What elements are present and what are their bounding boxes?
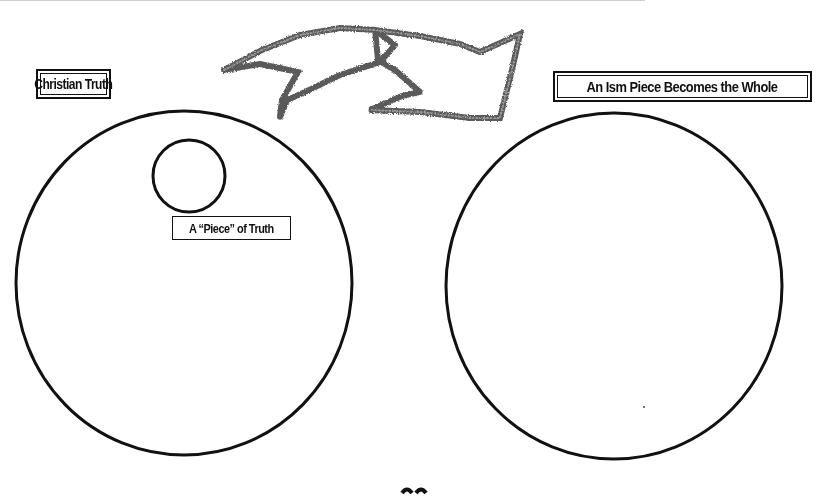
- speck-mark: [643, 406, 645, 408]
- christian-truth-label-text: Christian Truth: [35, 76, 113, 92]
- ism-whole-label: An Ism Piece Becomes the Whole: [553, 71, 812, 102]
- piece-of-truth-label: A “Piece” of Truth: [172, 216, 291, 240]
- ism-whole-label-text: An Ism Piece Becomes the Whole: [587, 78, 778, 95]
- christian-truth-circle: [16, 111, 352, 455]
- piece-of-truth-circle: [153, 140, 225, 212]
- ism-whole-circle: [446, 113, 782, 459]
- piece-of-truth-label-text: A “Piece” of Truth: [189, 221, 274, 236]
- page-number-cropped: [400, 483, 430, 497]
- christian-truth-label: Christian Truth: [36, 69, 111, 99]
- transformation-arrow-icon: [224, 28, 520, 118]
- cropped-glyphs-icon: [400, 483, 430, 497]
